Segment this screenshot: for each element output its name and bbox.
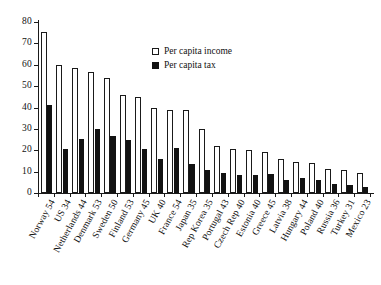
y-axis-tick-label: 80: [22, 17, 32, 27]
bar-per-capita-tax: [205, 170, 210, 193]
bar-group: [56, 22, 68, 193]
bar-per-capita-income: [135, 97, 141, 193]
x-axis-tick: [370, 193, 371, 197]
bar-per-capita-income: [167, 110, 173, 193]
bar-per-capita-income: [56, 65, 62, 193]
bar-group: [135, 22, 147, 193]
bar-per-capita-income: [151, 108, 157, 194]
x-axis-tick: [354, 193, 355, 197]
bar-per-capita-tax: [79, 139, 84, 194]
bar-group: [357, 22, 369, 193]
bar-group: [325, 22, 337, 193]
bar-per-capita-income: [278, 159, 284, 193]
bar-group: [262, 22, 274, 193]
legend-swatch-income: [152, 48, 159, 55]
legend-swatch-tax: [152, 62, 159, 69]
y-axis-tick-label: 70: [22, 39, 32, 49]
x-axis-tick: [164, 193, 165, 197]
bar-group: [246, 22, 258, 193]
legend-label-income: Per capita income: [164, 44, 232, 58]
y-axis-tick: [34, 172, 38, 173]
bar-per-capita-tax: [47, 105, 52, 193]
bar-per-capita-tax: [300, 178, 305, 193]
y-axis-tick: [34, 65, 38, 66]
x-axis-tick: [149, 193, 150, 197]
bar-per-capita-income: [246, 150, 252, 193]
y-axis-tick-label: 60: [22, 60, 32, 70]
bar-per-capita-tax: [253, 175, 258, 193]
bar-per-capita-income: [325, 169, 331, 193]
bar-group: [120, 22, 132, 193]
bar-per-capita-tax: [332, 184, 337, 193]
y-axis-tick: [34, 86, 38, 87]
x-axis-tick: [212, 193, 213, 197]
bar-per-capita-income: [230, 149, 236, 193]
x-axis-tick: [85, 193, 86, 197]
bar-group: [278, 22, 290, 193]
bar-per-capita-tax: [110, 136, 115, 193]
bar-per-capita-income: [293, 162, 299, 193]
bar-group: [104, 22, 116, 193]
y-axis-tick: [34, 150, 38, 151]
bar-per-capita-tax: [142, 149, 147, 193]
bar-per-capita-tax: [268, 174, 273, 193]
x-axis-tick: [38, 193, 39, 197]
bar-per-capita-tax: [316, 180, 321, 193]
y-axis-tick: [34, 108, 38, 109]
x-axis-tick: [291, 193, 292, 197]
y-axis-tick: [34, 22, 38, 23]
y-axis-tick-label: 0: [27, 188, 32, 198]
bar-per-capita-income: [341, 170, 347, 193]
x-axis-tick: [117, 193, 118, 197]
x-axis-tick: [307, 193, 308, 197]
x-axis-tick: [70, 193, 71, 197]
legend-item-tax: Per capita tax: [152, 58, 232, 72]
x-axis-tick: [196, 193, 197, 197]
bar-per-capita-tax: [174, 148, 179, 193]
bar-group: [72, 22, 84, 193]
x-axis-tick: [244, 193, 245, 197]
x-axis-tick: [228, 193, 229, 197]
bar-per-capita-income: [88, 72, 94, 193]
bar-per-capita-income: [357, 173, 363, 193]
y-axis-tick: [34, 129, 38, 130]
x-axis-tick: [323, 193, 324, 197]
bar-group: [293, 22, 305, 193]
bar-per-capita-income: [183, 110, 189, 193]
bar-per-capita-income: [120, 95, 126, 193]
x-axis-tick: [275, 193, 276, 197]
bar-per-capita-income: [309, 163, 315, 193]
x-axis-line: [38, 193, 374, 194]
bar-per-capita-tax: [189, 164, 194, 193]
bar-group: [309, 22, 321, 193]
y-axis-tick-label: 20: [22, 146, 32, 156]
y-axis-tick-label: 30: [22, 124, 32, 134]
bar-per-capita-income: [214, 146, 220, 193]
bar-per-capita-tax: [363, 187, 368, 193]
x-axis-tick: [54, 193, 55, 197]
bar-per-capita-tax: [126, 140, 131, 193]
bar-per-capita-tax: [237, 175, 242, 193]
bar-per-capita-tax: [158, 159, 163, 193]
bar-group: [88, 22, 100, 193]
bar-per-capita-tax: [284, 180, 289, 193]
bar-per-capita-income: [41, 32, 47, 193]
x-axis-tick: [338, 193, 339, 197]
legend-label-tax: Per capita tax: [164, 58, 216, 72]
x-axis-tick: [259, 193, 260, 197]
bar-group: [41, 22, 53, 193]
x-axis-tick: [101, 193, 102, 197]
bar-group: [341, 22, 353, 193]
y-axis-tick-label: 40: [22, 103, 32, 113]
bar-per-capita-tax: [95, 129, 100, 193]
bar-per-capita-income: [104, 78, 110, 193]
bar-chart-figure: 01020304050607080 Per capita income Per …: [0, 0, 381, 285]
bar-per-capita-tax: [63, 149, 68, 193]
y-axis-tick: [34, 43, 38, 44]
bar-per-capita-tax: [347, 185, 352, 193]
y-axis-tick-label: 10: [22, 167, 32, 177]
chart-legend: Per capita income Per capita tax: [152, 44, 232, 72]
bar-per-capita-income: [199, 129, 205, 193]
bar-per-capita-tax: [221, 173, 226, 193]
x-axis-tick: [180, 193, 181, 197]
